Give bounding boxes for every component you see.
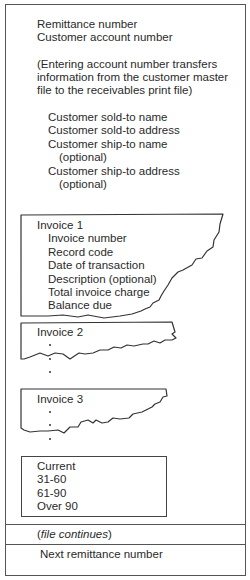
ellipsis-dot [49,371,51,373]
ellipsis-dot [49,424,51,426]
divider [5,544,246,545]
ellipsis-dot [49,344,51,346]
ellipsis-dot [49,358,51,360]
invoice-field: Balance due [48,299,112,313]
next-remittance-number-label: Next remittance number [40,548,163,562]
divider [5,524,246,525]
ellipsis-dot [49,438,51,440]
invoice-2-title: Invoice 2 [37,326,83,340]
invoice-3-title: Invoice 3 [37,393,83,407]
aging-61-90: 61-90 [37,487,66,501]
invoice-1-title: Invoice 1 [37,219,83,233]
aging-31-60: 31-60 [37,473,66,487]
file-continues-text: file continues [41,528,108,540]
file-continues-note: (file continues) [37,528,112,542]
invoice-field: Description (optional) [48,273,157,287]
invoice-field: Total invoice charge [48,286,150,300]
aging-current: Current [37,460,75,474]
invoice-field: Record code [48,246,113,260]
paren-close: ) [108,528,112,540]
aging-over-90: Over 90 [37,500,78,514]
invoice-field: Date of transaction [48,259,145,273]
invoice-field: Invoice number [48,232,127,246]
ellipsis-dot [49,411,51,413]
